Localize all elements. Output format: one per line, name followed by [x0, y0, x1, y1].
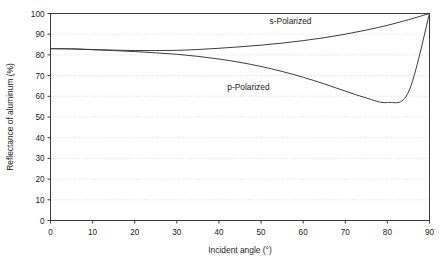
y-tick-label: 80 — [35, 51, 45, 60]
x-tick-label: 10 — [88, 228, 98, 237]
y-tick-label: 40 — [35, 134, 45, 143]
x-tick-label: 90 — [425, 228, 435, 237]
y-tick-label: 10 — [35, 196, 45, 205]
x-axis-title: Incident angle (°) — [208, 245, 272, 255]
reflectance-chart: 0102030405060708090100 01020304050607080… — [0, 0, 447, 264]
x-tick-label: 30 — [172, 228, 182, 237]
x-tick-label: 20 — [130, 228, 140, 237]
x-tick-label: 40 — [214, 228, 224, 237]
x-tick-label: 80 — [383, 228, 393, 237]
y-tick-label: 50 — [35, 113, 45, 122]
x-tick-label: 70 — [341, 228, 351, 237]
y-tick-label: 0 — [40, 217, 45, 226]
y-tick-label: 100 — [31, 10, 45, 19]
series-label-p-polarized: p-Polarized — [227, 82, 270, 92]
series-label-s-polarized: s-Polarized — [270, 16, 312, 26]
y-tick-label: 60 — [35, 92, 45, 101]
y-tick-label: 90 — [35, 30, 45, 39]
x-tick-label: 60 — [299, 228, 309, 237]
y-tick-label: 70 — [35, 72, 45, 81]
y-tick-label: 30 — [35, 154, 45, 163]
y-tick-label: 20 — [35, 175, 45, 184]
x-tick-label: 0 — [48, 228, 53, 237]
x-tick-label: 50 — [257, 228, 267, 237]
y-axis-title: Reflectance of aluminum (%) — [5, 63, 15, 171]
chart-background — [0, 0, 447, 264]
